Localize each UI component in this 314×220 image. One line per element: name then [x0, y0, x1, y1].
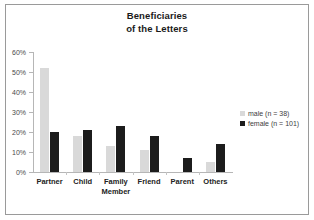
bar-male [140, 150, 149, 172]
bar-female [116, 126, 125, 172]
bar-female [150, 136, 159, 172]
bar-female [83, 130, 92, 172]
x-axis-label-line: Friend [138, 177, 161, 186]
bar-male [106, 146, 115, 172]
x-axis-label: Friend [133, 177, 166, 187]
y-axis-label: 60% [0, 49, 26, 56]
y-axis-tick [29, 152, 33, 153]
x-axis-label-line: Partner [36, 177, 62, 186]
x-axis-tick [66, 172, 67, 175]
x-axis-tick [166, 172, 167, 175]
x-axis-label-line: Parent [171, 177, 194, 186]
x-axis-tick [199, 172, 200, 175]
x-axis-label: Others [199, 177, 232, 187]
y-axis-label: 20% [0, 129, 26, 136]
legend-swatch-female-icon [240, 121, 245, 126]
x-axis-label: FamilyMember [99, 177, 132, 196]
bar-female [183, 158, 192, 172]
y-axis-label: 50% [0, 69, 26, 76]
bar-male [73, 136, 82, 172]
y-axis-label: 30% [0, 109, 26, 116]
bar-female [50, 132, 59, 172]
chart-title-line-2: of the Letters [0, 22, 314, 35]
y-axis-label: 40% [0, 89, 26, 96]
y-axis-tick [29, 72, 33, 73]
x-axis-label-line: Family [104, 177, 128, 186]
y-axis-tick [29, 92, 33, 93]
x-axis-label-line: Others [203, 177, 227, 186]
x-axis-label: Partner [33, 177, 66, 187]
legend-swatch-male-icon [240, 111, 245, 116]
chart-title-line-1: Beneficiaries [0, 9, 314, 22]
legend-label-female: female (n = 101) [248, 120, 299, 127]
x-axis-label-line: Child [73, 177, 92, 186]
legend-item-male[interactable]: male (n = 38) [240, 110, 299, 117]
y-axis-tick [29, 172, 33, 173]
bar-male [206, 162, 215, 172]
bar-male [40, 68, 49, 172]
plot-area: 0%10%20%30%40%50%60% [33, 52, 232, 172]
chart-figure: Beneficiaries of the Letters 0%10%20%30%… [0, 0, 314, 220]
legend-item-female[interactable]: female (n = 101) [240, 120, 299, 127]
legend-label-male: male (n = 38) [248, 110, 289, 117]
bar-female [216, 144, 225, 172]
y-axis-tick [29, 52, 33, 53]
x-axis-label-line: Member [99, 187, 132, 197]
x-axis-label: Child [66, 177, 99, 187]
y-axis-tick [29, 112, 33, 113]
y-axis-label: 0% [0, 169, 26, 176]
chart-title: Beneficiaries of the Letters [0, 9, 314, 35]
x-axis-tick [99, 172, 100, 175]
y-axis-tick [29, 132, 33, 133]
chart-legend: male (n = 38) female (n = 101) [240, 110, 299, 130]
y-axis-label: 10% [0, 149, 26, 156]
x-axis-tick [133, 172, 134, 175]
x-axis-label: Parent [166, 177, 199, 187]
